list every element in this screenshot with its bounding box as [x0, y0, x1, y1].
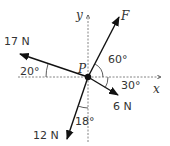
angle-arc-20: [46, 64, 48, 77]
point-label: P: [78, 63, 86, 75]
force-F-arrow: [88, 17, 119, 77]
angle-12N-label: 18°: [75, 116, 95, 127]
force-6N-label: 6 N: [113, 101, 132, 112]
force-12N-label: 12 N: [33, 130, 59, 141]
y-axis-label: y: [76, 9, 83, 21]
angle-17N-label: 20°: [20, 66, 40, 77]
angle-arc-60: [95, 64, 103, 77]
angle-F-label: 60°: [108, 54, 128, 65]
angle-6N-label: 30°: [121, 80, 141, 91]
force-diagram: P x y F 60° 17 N 20° 6 N 30° 12 N 18°: [0, 0, 170, 146]
force-6N-arrow: [88, 77, 118, 95]
angle-arc-18: [78, 106, 88, 108]
force-17N-label: 17 N: [4, 36, 30, 47]
force-F-label: F: [121, 10, 129, 22]
angle-arc-30: [105, 77, 108, 88]
x-axis-label: x: [153, 83, 160, 95]
